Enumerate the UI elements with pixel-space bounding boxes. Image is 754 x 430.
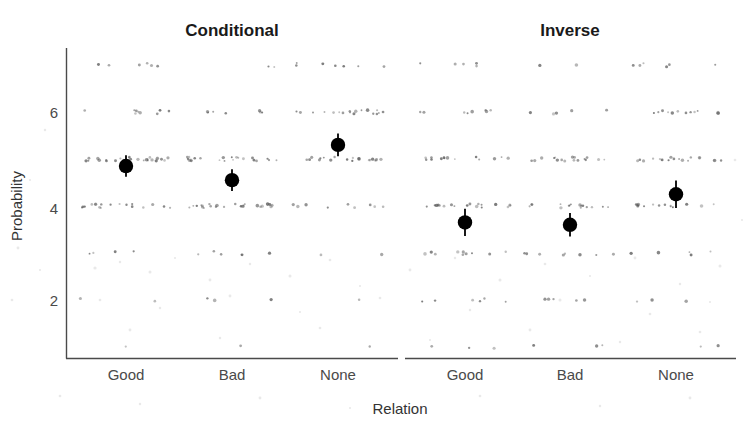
jitter-point xyxy=(312,112,314,114)
jitter-point xyxy=(114,250,117,253)
jitter-point xyxy=(373,205,376,208)
jitter-point xyxy=(136,158,139,161)
jitter-point xyxy=(689,111,691,113)
jitter-point xyxy=(658,204,660,206)
jitter-point xyxy=(371,157,374,160)
jitter-point xyxy=(224,112,227,115)
jitter-point xyxy=(538,253,541,256)
jitter-point xyxy=(563,159,566,162)
jitter-point xyxy=(197,253,199,255)
jitter-point xyxy=(142,206,144,208)
jitter-point xyxy=(304,203,307,206)
jitter-point xyxy=(192,205,194,207)
jitter-point xyxy=(273,66,275,68)
jitter-point xyxy=(296,62,298,64)
jitter-point xyxy=(244,203,246,205)
jitter-point xyxy=(481,207,483,209)
jitter-point xyxy=(146,62,149,65)
jitter-point xyxy=(453,205,455,207)
jitter-point xyxy=(595,254,597,256)
jitter-point xyxy=(83,109,86,112)
jitter-point xyxy=(323,157,325,159)
jitter-point xyxy=(586,206,588,208)
jitter-point xyxy=(150,64,153,67)
jitter-point xyxy=(484,109,486,111)
jitter-point xyxy=(591,206,593,208)
jitter-point xyxy=(629,252,632,255)
jitter-point xyxy=(81,207,83,209)
jitter-point xyxy=(717,344,720,347)
jitter-point xyxy=(347,203,350,206)
jitter-point xyxy=(169,207,171,209)
jitter-point xyxy=(687,160,689,162)
jitter-point xyxy=(468,203,471,206)
jitter-point xyxy=(231,156,233,158)
jitter-point xyxy=(329,158,332,161)
jitter-point xyxy=(237,157,239,159)
jitter-point xyxy=(475,156,478,159)
jitter-point xyxy=(97,63,100,66)
jitter-point xyxy=(556,158,559,161)
jitter-point xyxy=(690,254,693,257)
jitter-point xyxy=(642,159,645,162)
jitter-point xyxy=(138,63,141,66)
y-tick-label-2: 2 xyxy=(50,292,58,309)
jitter-point xyxy=(222,156,225,159)
jitter-point xyxy=(570,203,572,205)
jitter-point xyxy=(440,157,443,160)
jitter-point xyxy=(209,205,212,208)
jitter-point xyxy=(434,204,436,206)
x-axis-tick-labels: Good Bad None Good Bad None xyxy=(108,366,694,383)
jitter-point xyxy=(481,204,483,206)
jitter-point xyxy=(471,299,474,302)
jitter-point xyxy=(583,298,586,301)
jitter-point xyxy=(156,157,159,160)
jitter-point xyxy=(369,345,371,347)
jitter-point xyxy=(489,109,491,111)
jitter-point xyxy=(505,251,507,253)
jitter-point xyxy=(586,156,589,159)
jitter-point xyxy=(327,206,329,208)
jitter-point xyxy=(213,250,216,253)
jitter-point xyxy=(105,159,107,161)
jitter-point xyxy=(559,206,562,209)
jitter-point xyxy=(219,159,221,161)
jitter-point xyxy=(296,205,299,208)
jitter-point xyxy=(119,203,121,205)
jitter-point xyxy=(188,206,190,208)
jitter-point xyxy=(462,253,465,256)
jitter-point xyxy=(319,157,321,159)
jitter-point xyxy=(636,159,639,162)
jitter-point xyxy=(378,112,380,114)
jittered-data-points xyxy=(79,62,722,350)
x-axis-title: Relation xyxy=(372,400,427,417)
jitter-point xyxy=(443,156,446,159)
jitter-point xyxy=(83,205,85,207)
jitter-point xyxy=(295,111,297,113)
jitter-point xyxy=(305,158,308,161)
jitter-point xyxy=(456,250,459,253)
x-tick-label-conditional-good: Good xyxy=(108,366,145,383)
jitter-point xyxy=(382,205,385,208)
jitter-point xyxy=(650,298,653,301)
jitter-point xyxy=(261,205,264,208)
jitter-point xyxy=(163,159,166,162)
jitter-point xyxy=(689,251,691,253)
jitter-point xyxy=(376,113,378,115)
jitter-point xyxy=(379,158,382,161)
plot-canvas: Conditional Inverse 6 4 2 Probability Go… xyxy=(0,0,754,430)
jitter-point xyxy=(668,159,670,161)
jitter-point xyxy=(220,253,223,256)
jitter-point xyxy=(299,111,302,114)
jitter-point xyxy=(357,65,359,67)
x-tick-label-inverse-bad: Bad xyxy=(557,366,584,383)
jitter-point xyxy=(573,159,576,162)
jitter-point xyxy=(369,159,372,162)
jitter-point xyxy=(478,158,480,160)
jitter-point xyxy=(709,250,711,252)
mean-marker-inverse-good xyxy=(458,209,472,236)
jitter-point xyxy=(661,159,664,162)
jitter-point xyxy=(92,252,94,254)
y-tick-label-4: 4 xyxy=(50,200,58,217)
jitter-point xyxy=(605,109,608,112)
